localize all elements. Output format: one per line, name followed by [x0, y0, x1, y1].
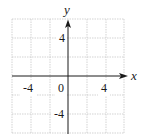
y-axis-label: y	[62, 2, 70, 17]
x-tick-label-4: 4	[101, 81, 107, 95]
y-tick-label-4: 4	[59, 31, 65, 45]
origin-label: 0	[58, 81, 64, 95]
y-tick-label-neg4: -4	[54, 107, 64, 121]
coordinate-plane-svg: x y -4 0 4 4 -4	[0, 0, 141, 137]
coordinate-plane: x y -4 0 4 4 -4	[0, 0, 141, 137]
x-tick-label-neg4: -4	[23, 81, 33, 95]
x-axis-label: x	[130, 68, 137, 83]
